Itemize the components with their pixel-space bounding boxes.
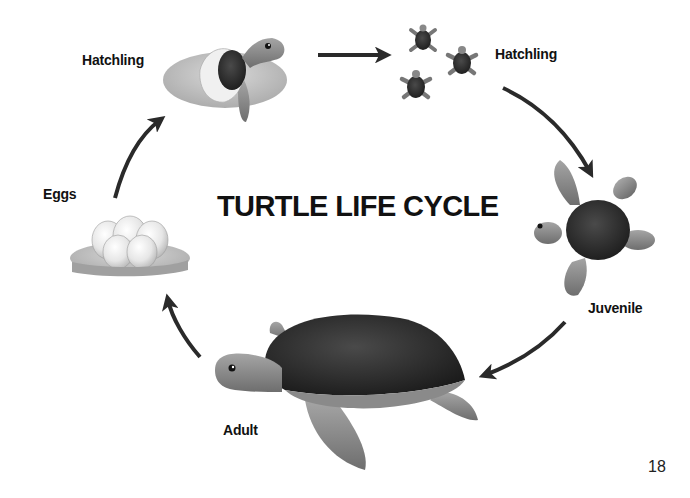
juvenile-illustration: [534, 160, 655, 296]
page-number: 18: [648, 458, 666, 476]
hatchling-emerging-illustration: [163, 38, 287, 122]
arrow-eggs-to-hatchling: [115, 120, 160, 198]
diagram-title: TURTLE LIFE CYCLE: [217, 190, 498, 223]
stage-label-eggs: Eggs: [43, 186, 76, 202]
turtle-life-cycle-diagram: Hatchling Hatchling Eggs Juvenile Adult …: [0, 0, 690, 498]
hatchlings-illustration: [402, 25, 476, 99]
stage-label-hatchlings: Hatchling: [495, 46, 557, 62]
stage-label-juvenile: Juvenile: [588, 300, 642, 316]
arrow-adult-to-eggs: [168, 300, 200, 357]
stage-label-hatchling-emerging: Hatchling: [82, 52, 144, 68]
eggs-illustration: [70, 216, 190, 276]
arrow-juvenile-to-adult: [485, 322, 565, 375]
arrow-hatchlings-to-juvenile: [503, 88, 590, 172]
diagram-artwork: [0, 0, 690, 498]
stage-label-adult: Adult: [223, 422, 258, 438]
adult-illustration: [215, 315, 478, 470]
